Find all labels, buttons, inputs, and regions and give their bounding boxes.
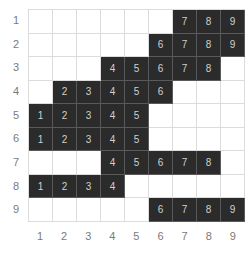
grid-cell-empty[interactable]	[101, 10, 125, 34]
row-label: 7	[8, 156, 24, 168]
column-label: 4	[100, 230, 124, 242]
grid-cell-filled[interactable]: 6	[149, 198, 173, 222]
grid-cell-filled[interactable]: 2	[53, 128, 77, 152]
grid-cell-filled[interactable]: 6	[149, 81, 173, 105]
grid-cell-filled[interactable]: 2	[53, 104, 77, 128]
row-label: 6	[8, 132, 24, 144]
grid-cell-empty[interactable]	[101, 34, 125, 58]
grid-cell-filled[interactable]: 5	[125, 81, 149, 105]
row-label: 9	[8, 203, 24, 215]
grid-cell-empty[interactable]	[221, 81, 245, 105]
grid-cell-filled[interactable]: 2	[53, 81, 77, 105]
grid-cell-empty[interactable]	[29, 34, 53, 58]
column-label: 6	[149, 230, 173, 242]
grid-cell-filled[interactable]: 1	[29, 175, 53, 199]
row-label: 3	[8, 61, 24, 73]
row-label: 5	[8, 109, 24, 121]
grid-cell-empty[interactable]	[53, 57, 77, 81]
grid-cell-empty[interactable]	[149, 128, 173, 152]
grid-cell-filled[interactable]: 7	[173, 57, 197, 81]
grid-cell-empty[interactable]	[197, 175, 221, 199]
column-label: 2	[52, 230, 76, 242]
grid-cell-filled[interactable]: 4	[101, 128, 125, 152]
column-label: 3	[76, 230, 100, 242]
grid-cell-empty[interactable]	[149, 104, 173, 128]
row-label: 8	[8, 180, 24, 192]
column-label: 5	[124, 230, 148, 242]
grid-cell-filled[interactable]: 3	[77, 104, 101, 128]
grid-cell-empty[interactable]	[77, 198, 101, 222]
grid-cell-empty[interactable]	[173, 128, 197, 152]
row-label: 4	[8, 85, 24, 97]
grid-cell-empty[interactable]	[77, 57, 101, 81]
grid-cell-empty[interactable]	[125, 175, 149, 199]
grid-cell-filled[interactable]: 4	[101, 151, 125, 175]
grid-cell-filled[interactable]: 5	[125, 57, 149, 81]
column-label: 8	[197, 230, 221, 242]
grid-cell-empty[interactable]	[29, 57, 53, 81]
grid-cell-filled[interactable]: 6	[149, 34, 173, 58]
grid-cell-empty[interactable]	[221, 57, 245, 81]
grid-cell-empty[interactable]	[53, 198, 77, 222]
grid-cell-empty[interactable]	[53, 10, 77, 34]
grid-cell-empty[interactable]	[221, 151, 245, 175]
grid-cell-empty[interactable]	[125, 10, 149, 34]
column-label: 1	[28, 230, 52, 242]
grid-cell-filled[interactable]: 1	[29, 104, 53, 128]
grid-cell-empty[interactable]	[173, 81, 197, 105]
grid-cell-filled[interactable]: 7	[173, 10, 197, 34]
puzzle-grid: 7896789456782345612345123454567812346789	[28, 9, 245, 222]
grid-cell-filled[interactable]: 7	[173, 34, 197, 58]
grid-cell-filled[interactable]: 5	[125, 104, 149, 128]
grid-cell-filled[interactable]: 6	[149, 151, 173, 175]
grid-cell-filled[interactable]: 9	[221, 10, 245, 34]
grid-cell-filled[interactable]: 4	[101, 175, 125, 199]
grid-cell-empty[interactable]	[29, 151, 53, 175]
row-label: 2	[8, 38, 24, 50]
grid-cell-filled[interactable]: 2	[53, 175, 77, 199]
grid-cell-filled[interactable]: 1	[29, 128, 53, 152]
grid-cell-empty[interactable]	[221, 128, 245, 152]
grid-cell-empty[interactable]	[29, 198, 53, 222]
grid-cell-empty[interactable]	[149, 10, 173, 34]
grid-cell-empty[interactable]	[29, 10, 53, 34]
grid-cell-empty[interactable]	[77, 10, 101, 34]
grid-cell-filled[interactable]: 5	[125, 151, 149, 175]
grid-cell-filled[interactable]: 8	[197, 198, 221, 222]
grid-cell-empty[interactable]	[125, 34, 149, 58]
grid-cell-empty[interactable]	[221, 175, 245, 199]
grid-cell-empty[interactable]	[221, 104, 245, 128]
grid-cell-empty[interactable]	[77, 34, 101, 58]
grid-cell-empty[interactable]	[53, 34, 77, 58]
grid-cell-filled[interactable]: 8	[197, 34, 221, 58]
row-label: 1	[8, 14, 24, 26]
grid-cell-empty[interactable]	[77, 151, 101, 175]
column-label: 7	[173, 230, 197, 242]
grid-cell-filled[interactable]: 8	[197, 10, 221, 34]
grid-cell-empty[interactable]	[53, 151, 77, 175]
grid-cell-filled[interactable]: 5	[125, 128, 149, 152]
grid-cell-filled[interactable]: 8	[197, 57, 221, 81]
grid-cell-filled[interactable]: 3	[77, 175, 101, 199]
grid-cell-filled[interactable]: 8	[197, 151, 221, 175]
grid-cell-empty[interactable]	[173, 175, 197, 199]
grid-cell-empty[interactable]	[173, 104, 197, 128]
grid-cell-empty[interactable]	[29, 81, 53, 105]
column-label: 9	[221, 230, 245, 242]
grid-cell-filled[interactable]: 4	[101, 81, 125, 105]
grid-cell-empty[interactable]	[197, 128, 221, 152]
grid-cell-filled[interactable]: 7	[173, 151, 197, 175]
grid-cell-filled[interactable]: 9	[221, 34, 245, 58]
grid-cell-empty[interactable]	[101, 198, 125, 222]
grid-cell-empty[interactable]	[197, 81, 221, 105]
grid-cell-filled[interactable]: 7	[173, 198, 197, 222]
grid-cell-empty[interactable]	[197, 104, 221, 128]
grid-cell-empty[interactable]	[125, 198, 149, 222]
grid-cell-filled[interactable]: 4	[101, 104, 125, 128]
grid-cell-filled[interactable]: 9	[221, 198, 245, 222]
grid-cell-filled[interactable]: 3	[77, 81, 101, 105]
grid-cell-filled[interactable]: 4	[101, 57, 125, 81]
grid-cell-filled[interactable]: 6	[149, 57, 173, 81]
grid-cell-empty[interactable]	[149, 175, 173, 199]
grid-cell-filled[interactable]: 3	[77, 128, 101, 152]
